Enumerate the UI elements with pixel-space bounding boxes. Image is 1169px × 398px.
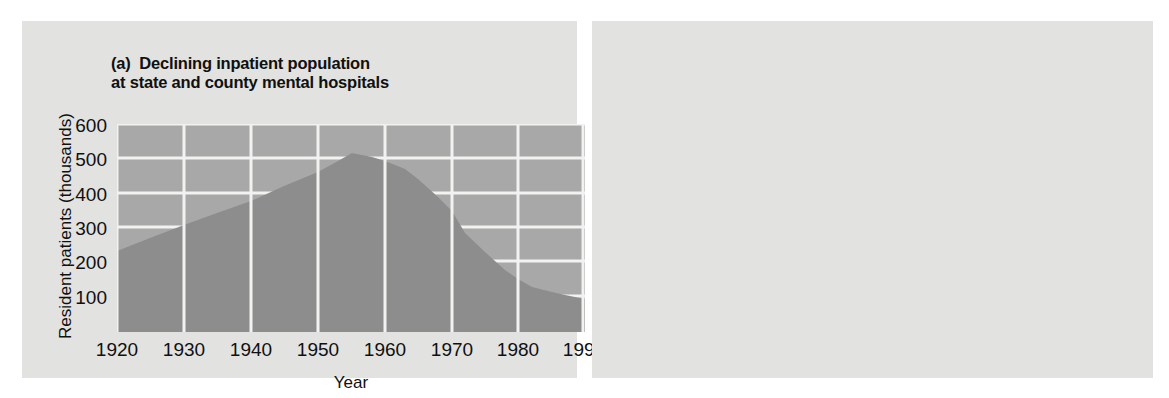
- panel-a-xtick-1970: 1970: [422, 339, 482, 361]
- panel-a-ytick-400: 400: [55, 184, 107, 206]
- figure-container: (a) Declining inpatient population at st…: [0, 0, 1169, 398]
- panel-a-area-chart: [117, 124, 585, 332]
- panel-b-card: (b) Shift from inpatient to outpatient m…: [592, 21, 1153, 378]
- panel-a-xtick-1930: 1930: [154, 339, 214, 361]
- panel-a-plot-area: [117, 124, 585, 332]
- panel-a-title: (a) Declining inpatient population at st…: [111, 54, 511, 92]
- panel-a-xtick-1920: 1920: [87, 339, 147, 361]
- panel-a-card: (a) Declining inpatient population at st…: [22, 21, 577, 378]
- panel-a-title-text: Declining inpatient population at state …: [111, 54, 389, 91]
- panel-a-ytick-600: 600: [55, 115, 107, 137]
- panel-a-xtick-1940: 1940: [221, 339, 281, 361]
- panel-a-ytick-300: 300: [55, 218, 107, 240]
- panel-a-xtick-1980: 1980: [488, 339, 548, 361]
- panel-a-xtick-1960: 1960: [355, 339, 415, 361]
- panel-a-ytick-500: 500: [55, 149, 107, 171]
- panel-a-area-series: [117, 153, 585, 332]
- panel-a-tag: (a): [111, 54, 131, 72]
- panel-a-xtick-1950: 1950: [288, 339, 348, 361]
- panel-a-ytick-200: 200: [55, 252, 107, 274]
- panel-a-ytick-100: 100: [55, 287, 107, 309]
- panel-a-x-axis-label: Year: [117, 373, 585, 393]
